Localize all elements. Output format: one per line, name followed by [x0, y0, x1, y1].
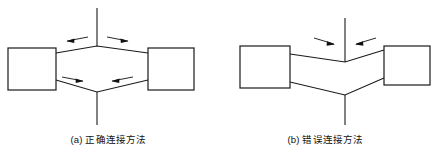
- diagram-a-correct-connection: [0, 0, 217, 132]
- lower-branch-pipe: [290, 78, 384, 95]
- flow-arrow-top-left: [67, 37, 89, 43]
- diagram-b-incorrect-connection: [217, 0, 434, 132]
- caption-panel-a: (a) 正确连接方法: [0, 134, 217, 146]
- equipment-box-right: [148, 48, 194, 90]
- equipment-box-left: [240, 46, 290, 88]
- flow-arrow-bottom-right: [112, 77, 134, 83]
- flow-arrow-top-right: [107, 37, 129, 43]
- equipment-box-right: [384, 46, 430, 85]
- flow-arrow-top-right: [355, 38, 376, 46]
- flow-arrow-top-left: [314, 38, 335, 46]
- upper-branch-pipe: [290, 50, 384, 62]
- lower-branch-pipe: [56, 80, 148, 92]
- caption-panel-b: (b) 错误连接方法: [217, 134, 434, 146]
- flow-arrow-bottom-left: [62, 77, 84, 83]
- upper-branch-pipe: [56, 46, 148, 53]
- equipment-box-left: [8, 48, 56, 90]
- figure-panel-a: (a) 正确连接方法: [0, 0, 217, 158]
- figure-root: (a) 正确连接方法: [0, 0, 434, 158]
- figure-panel-b: (b) 错误连接方法: [217, 0, 434, 158]
